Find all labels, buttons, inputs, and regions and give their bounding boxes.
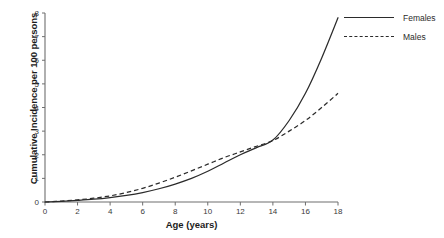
y-tick-label: 5 bbox=[27, 79, 39, 88]
x-tick-label: 6 bbox=[135, 207, 151, 216]
y-tick-label: 7 bbox=[27, 32, 39, 41]
x-tick-label: 0 bbox=[37, 207, 53, 216]
y-tick-label: 1 bbox=[27, 174, 39, 183]
series-line-males bbox=[45, 93, 338, 202]
x-tick-label: 16 bbox=[297, 207, 313, 216]
y-tick-label: 2 bbox=[27, 150, 39, 159]
legend-item-males: Males bbox=[344, 27, 440, 46]
x-tick-label: 12 bbox=[232, 207, 248, 216]
y-tick-label: 8 bbox=[27, 9, 39, 18]
legend-line-solid-icon bbox=[344, 13, 394, 22]
x-tick-label: 10 bbox=[200, 207, 216, 216]
legend-label-females: Females bbox=[394, 13, 436, 23]
legend-item-females: Females bbox=[344, 8, 440, 27]
legend-label-males: Males bbox=[394, 32, 426, 42]
x-tick-label: 2 bbox=[70, 207, 86, 216]
x-tick-label: 14 bbox=[265, 207, 281, 216]
y-tick-label: 4 bbox=[27, 103, 39, 112]
legend-line-dashed-icon bbox=[344, 32, 394, 41]
chart-legend: Females Males bbox=[344, 8, 440, 46]
y-tick-label: 6 bbox=[27, 56, 39, 65]
y-tick-label: 3 bbox=[27, 127, 39, 136]
chart-screenshot: Cumulative Incidence per 100 persons Age… bbox=[0, 0, 444, 238]
y-tick-label: 0 bbox=[27, 198, 39, 207]
x-tick-label: 8 bbox=[167, 207, 183, 216]
x-tick-label: 18 bbox=[330, 207, 346, 216]
x-tick-label: 4 bbox=[102, 207, 118, 216]
series-line-females bbox=[45, 18, 338, 202]
